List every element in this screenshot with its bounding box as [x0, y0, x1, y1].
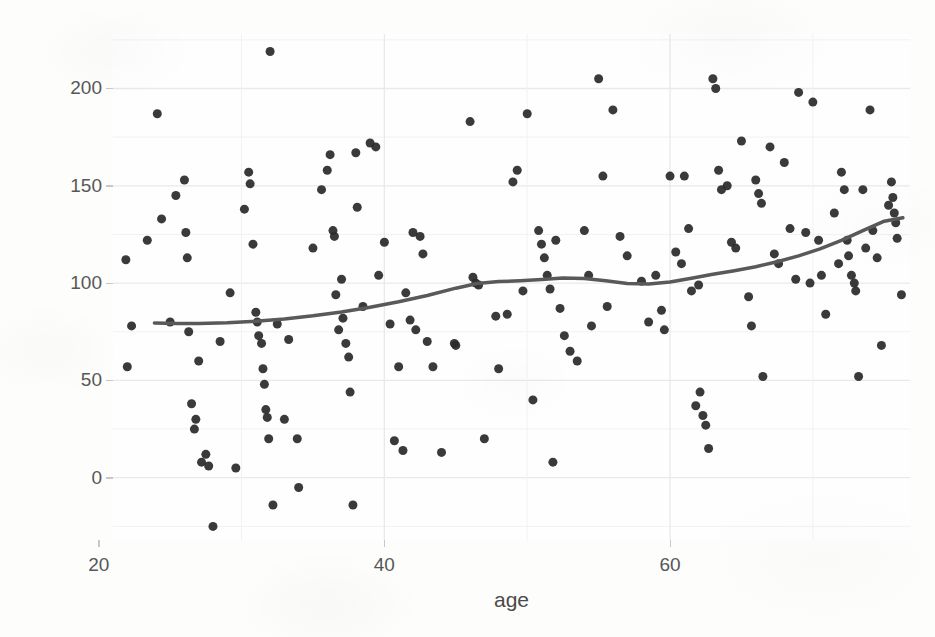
chart-figure: 050100150200 204060 ToT age	[0, 0, 935, 637]
x-tick-label: 60	[659, 554, 680, 576]
x-axis-title: age	[494, 588, 529, 612]
axis-tick-mark	[670, 540, 671, 547]
axis-tick-mark	[106, 380, 113, 381]
y-tick-label: 200	[40, 77, 102, 99]
x-tick-label: 40	[374, 554, 395, 576]
y-tick-label: 150	[40, 175, 102, 197]
axis-tick-mark	[106, 283, 113, 284]
axis-tick-mark	[384, 540, 385, 547]
y-tick-label: 0	[40, 467, 102, 489]
axis-tick-mark	[98, 540, 99, 547]
y-tick-label: 50	[40, 369, 102, 391]
axis-tick-mark	[106, 88, 113, 89]
axis-tick-mark	[106, 477, 113, 478]
plot-canvas	[113, 34, 910, 540]
axis-tick-mark	[106, 185, 113, 186]
y-tick-label: 100	[40, 272, 102, 294]
plot-panel	[113, 34, 910, 540]
x-tick-label: 20	[88, 554, 109, 576]
